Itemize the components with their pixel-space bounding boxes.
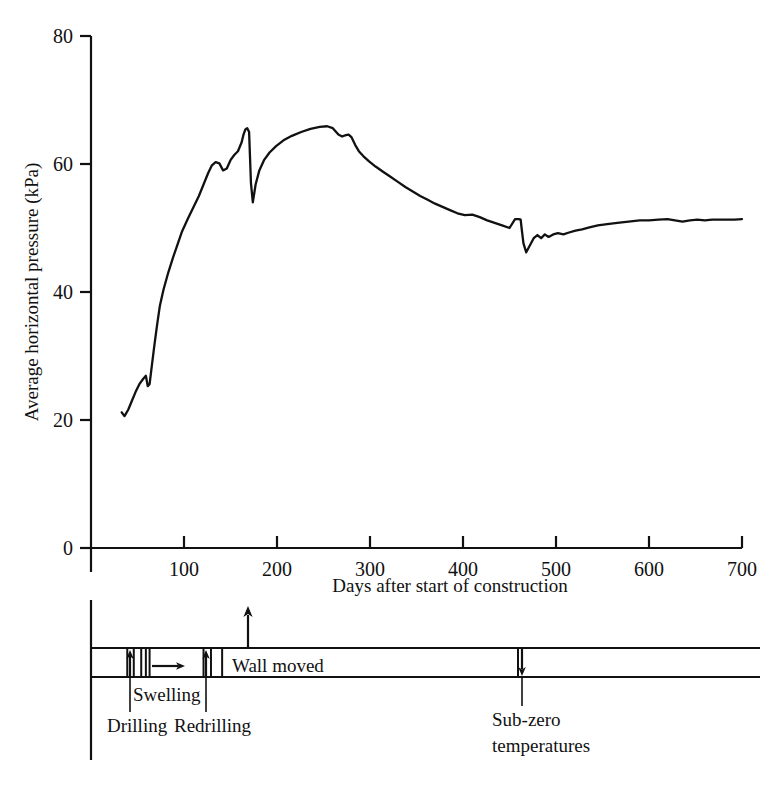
drilling-label: Drilling xyxy=(107,715,168,736)
event-timeline xyxy=(91,600,760,760)
x-tick-label: 600 xyxy=(634,558,664,580)
wall-moved-label: Wall moved xyxy=(232,655,324,676)
x-tick-label: 200 xyxy=(262,558,292,580)
annotation-swelling: Swelling xyxy=(133,662,201,705)
sub-zero-label-line2: temperatures xyxy=(492,735,590,756)
pressure-vs-days-chart: 020406080 100200300400500600700 Average … xyxy=(0,0,777,790)
y-tick-label: 80 xyxy=(53,25,73,47)
sub-zero-label-line1: Sub-zero xyxy=(492,709,561,730)
y-tick-label: 60 xyxy=(53,153,73,175)
pressure-line xyxy=(122,126,742,416)
timeline-dividers xyxy=(91,648,222,677)
y-tick-label: 0 xyxy=(63,537,73,559)
redrilling-label: Redrilling xyxy=(174,715,252,736)
y-tick-label: 40 xyxy=(53,281,73,303)
annotation-wall-moved: Wall moved xyxy=(232,606,324,676)
swelling-label: Swelling xyxy=(133,684,201,705)
x-tick-label: 100 xyxy=(169,558,199,580)
figure-average-horizontal-pressure: 020406080 100200300400500600700 Average … xyxy=(0,0,777,790)
data-series-group xyxy=(122,126,742,416)
y-axis-ticks xyxy=(80,36,91,548)
y-axis-title: Average horizontal pressure (kPa) xyxy=(21,163,43,422)
y-axis-tick-labels: 020406080 xyxy=(53,25,73,559)
x-axis-title: Days after start of construction xyxy=(332,575,568,596)
x-tick-label: 700 xyxy=(727,558,757,580)
annotation-sub-zero: Sub-zero temperatures xyxy=(492,648,590,756)
y-tick-label: 20 xyxy=(53,409,73,431)
x-axis-ticks xyxy=(184,536,742,548)
